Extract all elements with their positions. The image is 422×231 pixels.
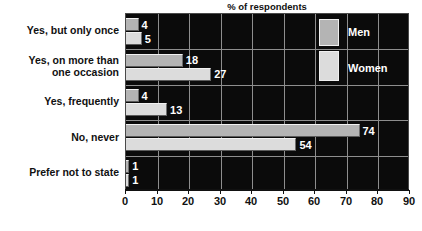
bar-value-label: 54: [299, 139, 311, 151]
axis-tick-label: 80: [365, 195, 389, 208]
category-label-1: Yes, on more thanone occasion: [0, 54, 119, 79]
category-label-line: Yes, on more than: [0, 54, 119, 67]
bar-value-label: 4: [142, 90, 148, 102]
legend-label-men: Men: [348, 26, 370, 38]
category-label-line: Prefer not to state: [0, 166, 119, 179]
value-axis: 0102030405060708090: [125, 190, 409, 220]
axis-tick-label: 70: [334, 195, 358, 208]
bar-men-4: [126, 160, 129, 173]
legend-swatch-men: [319, 19, 339, 46]
gridline-horizontal: [126, 85, 408, 86]
axis-tick-mark: [125, 190, 126, 194]
gridline-vertical: [378, 14, 379, 189]
gridline-vertical: [189, 14, 190, 189]
bar-value-label: 13: [170, 104, 182, 116]
axis-tick-label: 30: [208, 195, 232, 208]
bar-value-label: 1: [132, 160, 138, 172]
bar-men-3: [126, 124, 360, 137]
legend-swatch-women: [319, 51, 339, 81]
bar-value-label: 5: [145, 33, 151, 45]
bar-value-label: 27: [214, 68, 226, 80]
bar-chart: % of respondents Yes, but only onceYes, …: [0, 0, 422, 231]
axis-tick-mark: [377, 190, 378, 194]
axis-tick-mark: [220, 190, 221, 194]
bar-women-0: [126, 32, 142, 45]
bar-women-4: [126, 174, 129, 187]
gridline-horizontal: [126, 120, 408, 121]
category-label-0: Yes, but only once: [0, 24, 119, 37]
gridline-vertical: [284, 14, 285, 189]
category-axis: Yes, but only onceYes, on more thanone o…: [0, 13, 119, 190]
axis-tick-label: 20: [176, 195, 200, 208]
bar-women-2: [126, 103, 167, 116]
gridline-horizontal: [126, 156, 408, 157]
bar-men-0: [126, 18, 139, 31]
axis-tick-label: 10: [145, 195, 169, 208]
axis-tick-mark: [251, 190, 252, 194]
axis-tick-mark: [188, 190, 189, 194]
plot-area: 451827413745411MenWomen: [125, 13, 409, 190]
bar-value-label: 1: [132, 174, 138, 186]
gridline-horizontal: [126, 49, 408, 50]
category-label-3: No, never: [0, 131, 119, 144]
axis-tick-mark: [314, 190, 315, 194]
gridline-vertical: [347, 14, 348, 189]
bar-value-label: 74: [363, 125, 375, 137]
legend-label-women: Women: [348, 62, 388, 74]
axis-tick-mark: [346, 190, 347, 194]
category-label-2: Yes, frequently: [0, 95, 119, 108]
category-label-line: No, never: [0, 131, 119, 144]
category-label-line: Yes, frequently: [0, 95, 119, 108]
category-label-line: one occasion: [0, 66, 119, 79]
axis-tick-mark: [157, 190, 158, 194]
bar-value-label: 4: [142, 19, 148, 31]
bar-men-2: [126, 89, 139, 102]
category-label-line: Yes, but only once: [0, 24, 119, 37]
axis-tick-label: 0: [113, 195, 137, 208]
axis-tick-label: 40: [239, 195, 263, 208]
gridline-vertical: [252, 14, 253, 189]
chart-title: % of respondents: [125, 0, 409, 13]
axis-tick-mark: [283, 190, 284, 194]
gridline-vertical: [315, 14, 316, 189]
bar-women-3: [126, 138, 296, 151]
gridline-vertical: [158, 14, 159, 189]
axis-tick-label: 60: [302, 195, 326, 208]
gridline-vertical: [221, 14, 222, 189]
axis-tick-mark: [409, 190, 410, 194]
bar-women-1: [126, 68, 211, 81]
axis-tick-label: 50: [271, 195, 295, 208]
bar-men-1: [126, 54, 183, 67]
bar-value-label: 18: [186, 54, 198, 66]
axis-tick-label: 90: [397, 195, 421, 208]
category-label-4: Prefer not to state: [0, 166, 119, 179]
